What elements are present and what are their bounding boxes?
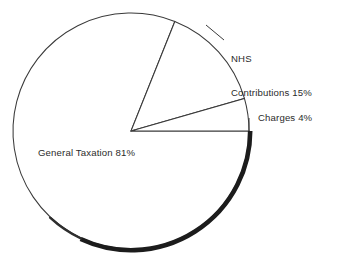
leader-line-nhs	[206, 25, 224, 40]
pie-label-charges: Charges 4%	[258, 112, 312, 123]
pie-label-nhs-line-1: NHS	[231, 53, 312, 64]
pie-chart-figure: NHS Contributions 15% Charges 4% General…	[0, 0, 338, 265]
pie-label-nhs-contributions: NHS Contributions 15%	[231, 30, 312, 121]
pie-label-general-taxation: General Taxation 81%	[38, 147, 135, 158]
pie-label-nhs-line-2: Contributions 15%	[231, 87, 312, 98]
